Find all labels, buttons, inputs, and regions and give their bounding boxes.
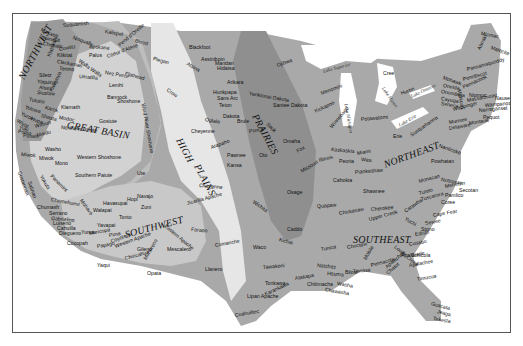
tribe-label: Ute <box>137 171 145 176</box>
tribe-label: Oto <box>259 153 267 158</box>
tribe-label: Shawnee <box>363 189 385 194</box>
tribe-label: Cocopah <box>67 241 88 246</box>
tribe-label: Lipan Apache <box>247 294 278 299</box>
tribe-label: Teton <box>219 103 232 108</box>
tribe-label: Coree <box>441 200 455 205</box>
tribe-label: Opata <box>147 271 161 276</box>
tribe-label: Navajo <box>137 194 153 199</box>
tribe-label: Gosiute <box>99 119 117 124</box>
tribe-label: Western Shoshone <box>77 155 121 160</box>
tribe-label: Blackfoot <box>189 45 210 50</box>
tribe-label: Cahokia <box>333 178 352 183</box>
tribe-label: Omaha <box>283 139 300 144</box>
tribe-label: Havasupai <box>103 201 128 206</box>
tribe-label: Llanero <box>205 267 222 272</box>
map-frame: NORTHWESTGREAT BASINHIGHPLAINSPRAIRIESNO… <box>12 13 511 333</box>
tribe-label: Tonto <box>119 215 132 220</box>
tribe-label: Diegueno <box>59 231 81 236</box>
tribe-label: Waco <box>253 245 266 250</box>
tribe-label: Cree <box>383 71 394 76</box>
tribe-label: Washo <box>45 147 61 152</box>
tribe-label: Wea <box>361 157 372 163</box>
tribe-label: Caddo <box>287 227 302 232</box>
tribe-label: Miwok <box>39 156 54 161</box>
tribe-label: Cheyenne <box>191 129 215 134</box>
tribe-label: Pawnee <box>227 153 246 158</box>
tribe-label: Mescalero <box>167 247 191 252</box>
tribe-label: Lemhi <box>109 83 123 88</box>
tribe-label: Erie <box>393 134 402 139</box>
tribe-label: Yaqui <box>97 263 110 268</box>
tribe-label: Shoshone <box>117 99 140 104</box>
tribe-label: Peoria <box>339 159 354 164</box>
tribe-label: Klamath <box>61 105 80 110</box>
tribe-label: Arikara <box>227 80 243 85</box>
tribe-label: Brule <box>237 119 249 124</box>
tribe-label: Powhatan <box>431 159 454 164</box>
tribe-label: Mono <box>55 161 68 166</box>
tribe-label: Osage <box>287 190 302 195</box>
tribe-label: Pamlico <box>445 193 463 198</box>
tribe-label: Palus <box>89 53 102 58</box>
tribe-label: Southern Paiute <box>75 173 112 178</box>
tribe-label: Walapai <box>93 208 112 213</box>
tribe-label: Sans Arc <box>217 96 238 101</box>
tribe-label: Hidatsa <box>217 66 235 71</box>
tribe-label: Santee Dakota <box>273 103 307 108</box>
tribe-label: Kansa <box>227 163 242 168</box>
tribe-label: Zuni <box>141 205 151 210</box>
